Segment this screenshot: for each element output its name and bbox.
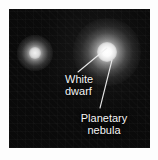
companion-star-glow — [17, 35, 53, 71]
annotation-planetary-nebula-line1: Planetary — [81, 112, 127, 124]
annotation-white-dwarf-line1: White — [65, 73, 93, 85]
white-dwarf-core — [97, 42, 117, 62]
annotation-planetary-nebula-line2: nebula — [77, 124, 131, 136]
leader-line-planetary-nebula — [100, 60, 112, 108]
sky-image-panel: White dwarf Planetary nebula — [9, 9, 150, 148]
leader-line-white-dwarf — [78, 48, 107, 72]
astronomy-figure: White dwarf Planetary nebula — [0, 0, 158, 160]
annotation-label-planetary-nebula: Planetary nebula — [77, 112, 131, 136]
companion-star-core — [29, 47, 41, 59]
annotation-white-dwarf-line2: dwarf — [65, 85, 93, 97]
annotation-label-white-dwarf: White dwarf — [65, 73, 93, 97]
